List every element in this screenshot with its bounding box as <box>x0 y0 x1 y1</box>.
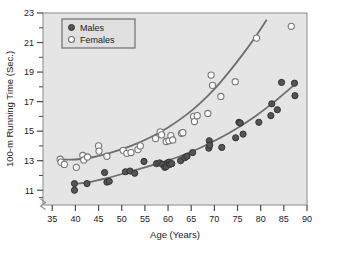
x-tick-label: 45 <box>94 214 104 224</box>
data-point-female <box>61 161 67 167</box>
x-tick-label: 50 <box>117 214 127 224</box>
y-tick-label: 17 <box>24 97 34 107</box>
y-tick-label: 15 <box>24 126 34 136</box>
data-point-female <box>73 164 79 170</box>
x-tick-label: 85 <box>279 214 289 224</box>
data-point-male <box>190 149 196 155</box>
data-point-female <box>205 110 211 116</box>
data-point-male <box>268 113 274 119</box>
data-point-female <box>137 143 143 149</box>
data-point-male <box>274 107 280 113</box>
data-point-female <box>253 35 259 41</box>
x-axis-title: Age (Years) <box>150 229 200 240</box>
chart-figure: 11131517192123 354045505560657075808590 … <box>0 0 356 258</box>
data-point-male <box>237 120 243 126</box>
data-point-female <box>84 154 90 160</box>
x-tick-label: 70 <box>209 214 219 224</box>
data-point-female <box>96 148 102 154</box>
x-tick-label: 90 <box>302 214 312 224</box>
x-tick-label: 80 <box>256 214 266 224</box>
data-point-male <box>169 161 175 167</box>
data-point-male <box>207 142 213 148</box>
y-tick-label: 19 <box>24 67 34 77</box>
data-point-male <box>278 79 284 85</box>
x-tick-label: 35 <box>47 214 57 224</box>
data-point-female <box>152 135 158 141</box>
data-point-female <box>104 153 110 159</box>
legend-label-females: Females <box>80 35 115 45</box>
data-point-male <box>256 119 262 125</box>
data-point-male <box>71 187 77 193</box>
x-tick-label: 40 <box>70 214 80 224</box>
data-point-male <box>291 80 297 86</box>
data-point-female <box>208 72 214 78</box>
y-axis-title: 100-m Running Time (Sec.) <box>4 51 15 167</box>
data-point-male <box>240 131 246 137</box>
data-point-male <box>84 180 90 186</box>
legend-marker-females <box>69 37 75 43</box>
data-point-male <box>219 144 225 150</box>
data-point-female <box>128 149 134 155</box>
legend-label-males: Males <box>80 23 105 33</box>
data-point-female <box>218 93 224 99</box>
data-point-female <box>180 130 186 136</box>
data-point-male <box>233 135 239 141</box>
data-point-female <box>170 137 176 143</box>
data-point-male <box>106 178 112 184</box>
data-point-male <box>141 158 147 164</box>
x-tick-label: 75 <box>233 214 243 224</box>
y-tick-label: 21 <box>24 38 34 48</box>
data-point-male <box>102 169 108 175</box>
y-tick-label: 23 <box>24 8 34 18</box>
data-point-female <box>232 79 238 85</box>
data-point-female <box>194 113 200 119</box>
x-tick-label: 65 <box>186 214 196 224</box>
data-point-female <box>288 23 294 29</box>
y-tick-label: 11 <box>25 186 34 196</box>
legend[interactable]: Males Females <box>62 19 135 48</box>
x-tick-label: 55 <box>140 214 150 224</box>
y-tick-label: 13 <box>24 156 34 166</box>
data-point-female <box>209 82 215 88</box>
data-point-female <box>158 132 164 138</box>
data-point-male <box>132 170 138 176</box>
data-point-female <box>191 118 197 124</box>
data-point-male <box>269 101 275 107</box>
x-tick-label: 60 <box>163 214 173 224</box>
data-point-male <box>71 180 77 186</box>
legend-marker-males <box>69 25 75 31</box>
data-point-male <box>292 93 298 99</box>
data-point-male <box>184 153 190 159</box>
scatter-plot-svg: 11131517192123 354045505560657075808590 … <box>0 0 356 258</box>
